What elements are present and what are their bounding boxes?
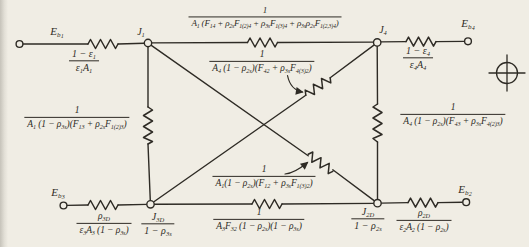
- wire-eb3-j3d: [67, 204, 147, 205]
- resistance-label-j4-eb4: 1 − ε4 ε4A4: [403, 45, 433, 70]
- numerator: 1 − ε4: [403, 45, 433, 58]
- numerator: 1: [400, 102, 505, 115]
- numerator: 1 − ε1: [69, 48, 99, 61]
- resistance-label-j3d-j2d: 1 A3F32 (1 − ρ2s)(1 − ρ3s): [213, 207, 304, 231]
- j4-label: J4: [379, 24, 387, 35]
- denominator: A3F32 (1 − ρ2s)(1 − ρ3s): [213, 220, 304, 232]
- resistance-label-eb3-j3d: ρ3D ε3A3 (1 − ρ3s): [77, 211, 132, 235]
- numerator: 1: [24, 105, 129, 118]
- numerator: J2D: [351, 206, 384, 219]
- eb3-label: Eb3: [51, 186, 64, 198]
- label-arrows: [285, 76, 308, 175]
- eb2-label: Eb2: [458, 183, 471, 195]
- denominator: A4 (1 − ρ2s)(F42 + ρ3sF4(3)2): [209, 62, 314, 74]
- resistance-label-j1-j4: 1 A1 (F14 + ρ2sF1(2)4 + ρ3sF1(3)4 + ρ3sρ…: [189, 5, 342, 28]
- resistance-label-j2d-eb2: ρ2D ε2A2 (1 − ρ2s): [397, 208, 452, 232]
- numerator: 1: [213, 207, 304, 220]
- denominator: ε3A3 (1 − ρ3s): [77, 224, 132, 236]
- node-eb3-terminal: [60, 202, 67, 209]
- j1-label: J1: [137, 26, 145, 37]
- wire-j3d-j2d: [154, 203, 374, 204]
- denominator: 1 − ρ3s: [141, 224, 174, 236]
- denominator: 1 − ρ2s: [351, 219, 384, 231]
- numerator: 1: [189, 5, 342, 17]
- denominator: A1 (1 − ρ3s)(F13 + ρ2sF1(2)3): [24, 118, 129, 130]
- eb1-label: Eb1: [50, 25, 63, 37]
- wire-eb1-j1: [23, 43, 144, 44]
- j3d-node-label: J3D 1 − ρ3s: [141, 211, 174, 236]
- denominator: ε4A4: [403, 59, 433, 71]
- denominator: A1 (F14 + ρ2sF1(2)4 + ρ3sF1(3)4 + ρ3sρ2s…: [189, 18, 342, 29]
- resistor-eb1-j1-symbol: [88, 40, 118, 49]
- denominator: A1(1 − ρ2s)(F12 + ρ3sF1(3)2): [212, 177, 315, 189]
- resistor-j4-j2d-symbol: [373, 104, 382, 142]
- radiation-network-figure: Eb1 J1 J4 Eb4 Eb3 Eb2 J3D 1 − ρ3s J2D 1 …: [0, 0, 529, 247]
- node-eb1-terminal: [16, 41, 23, 48]
- upper-label-arrow: [288, 76, 303, 93]
- registration-mark-icon: [489, 55, 525, 91]
- resistor-j1-j3d-symbol: [144, 107, 153, 144]
- numerator: 1: [212, 164, 315, 177]
- wire-j4-eb4: [381, 41, 465, 42]
- node-eb2-terminal: [463, 199, 470, 206]
- wire-j2d-eb2: [381, 202, 463, 203]
- denominator: ε2A2 (1 − ρ2s): [397, 221, 452, 233]
- resistance-label-eb1-j1: 1 − ε1 ε1A1: [69, 48, 99, 73]
- resistance-label-j4-j2d: 1 A4 (1 − ρ2s)(F43 + ρ3sF4(2)3): [400, 102, 505, 126]
- resistance-label-j1-j3d: 1 A1 (1 − ρ3s)(F13 + ρ2sF1(2)3): [24, 105, 129, 129]
- resistance-label-j1-j2d: 1 A1(1 − ρ2s)(F12 + ρ3sF1(3)2): [212, 164, 315, 188]
- resistor-j2d-eb2-symbol: [408, 198, 438, 207]
- numerator: J3D: [141, 211, 174, 224]
- numerator: ρ2D: [397, 208, 452, 221]
- node-eb4-terminal: [465, 38, 472, 45]
- numerator: ρ3D: [77, 211, 132, 224]
- resistor-eb3-j3d-symbol: [88, 201, 118, 210]
- node-j4-terminal: [374, 39, 381, 46]
- denominator: A4 (1 − ρ2s)(F43 + ρ3sF4(2)3): [400, 115, 505, 127]
- resistance-label-j4-j3d: 1 A4 (1 − ρ2s)(F42 + ρ3sF4(3)2): [209, 49, 314, 73]
- eb4-label: Eb4: [461, 17, 474, 29]
- node-j3d-terminal: [147, 201, 154, 208]
- resistor-j4-j3d-symbol: [303, 74, 333, 99]
- denominator: ε1A1: [69, 62, 99, 74]
- node-j1-terminal: [144, 39, 151, 46]
- j2d-node-label: J2D 1 − ρ2s: [351, 206, 384, 231]
- resistor-j1-j4-symbol: [248, 38, 278, 47]
- numerator: 1: [209, 49, 314, 62]
